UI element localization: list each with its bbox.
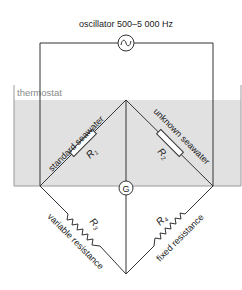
oscillator-label: oscillator 500–5 000 Hz bbox=[79, 19, 174, 29]
wire-bottom-left-a bbox=[40, 186, 68, 214]
wire-bottom-right-b bbox=[126, 246, 154, 274]
wire-bottom-right-a bbox=[185, 186, 213, 214]
galvanometer-label: G bbox=[122, 184, 129, 194]
wire-bottom-left-b bbox=[100, 246, 126, 274]
wheatstone-bridge-diagram: thermostat oscillator 500–5 000 Hz stand… bbox=[0, 0, 242, 290]
thermostat-bath bbox=[14, 100, 241, 186]
resistor-r4-symbol: R4 bbox=[154, 212, 170, 228]
galvanometer: G bbox=[119, 181, 133, 195]
resistor-r3-symbol: R3 bbox=[87, 216, 103, 232]
thermostat: thermostat bbox=[14, 85, 241, 186]
oscillator: oscillator 500–5 000 Hz bbox=[79, 19, 174, 51]
